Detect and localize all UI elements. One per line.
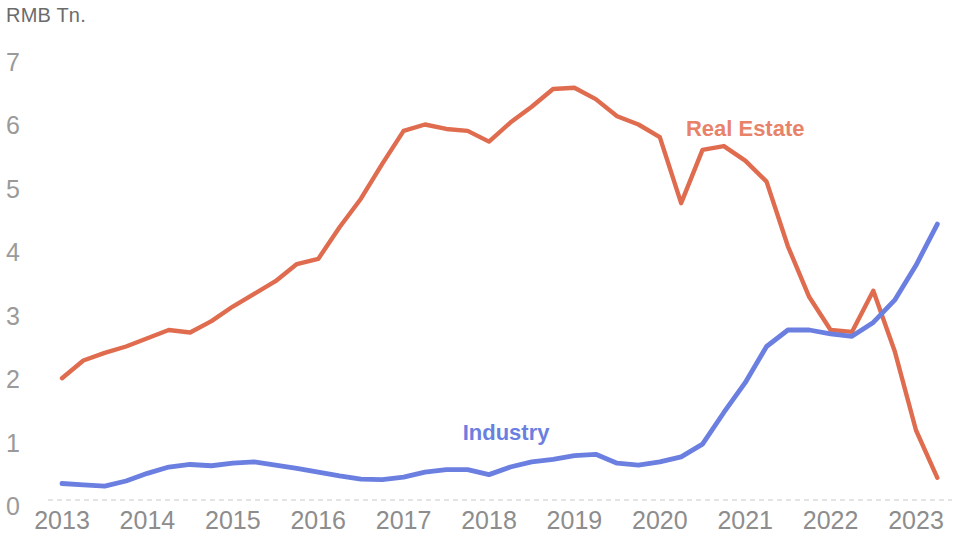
series-label-real-estate: Real Estate	[686, 118, 805, 140]
plot-area	[0, 0, 958, 537]
series-label-industry: Industry	[463, 422, 550, 444]
series-line-industry	[62, 224, 937, 486]
line-chart: RMB Tn. 01234567 20132014201520162017201…	[0, 0, 958, 537]
series-line-real-estate	[62, 88, 937, 478]
